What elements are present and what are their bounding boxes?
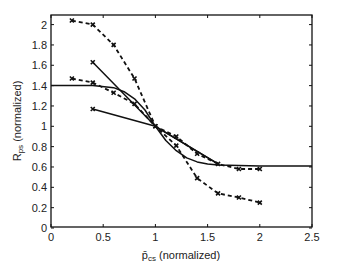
x-axis-label: p̄cs (normalized) bbox=[142, 249, 220, 263]
x-tick-label: 2 bbox=[257, 231, 263, 243]
series-solid-steep bbox=[93, 62, 218, 164]
x-tick-label: 0.5 bbox=[96, 231, 111, 243]
series-dashed-lower bbox=[72, 79, 260, 170]
y-tick-label: 0.8 bbox=[32, 141, 47, 153]
y-tick-label: 1.2 bbox=[32, 100, 47, 112]
y-tick-label: 0.4 bbox=[32, 181, 47, 193]
x-tick-label: 1.5 bbox=[200, 231, 215, 243]
y-axis-ticks: 00.20.40.60.811.21.41.61.82 bbox=[32, 19, 312, 234]
series-solid-smooth bbox=[51, 86, 312, 166]
x-marker-icon bbox=[91, 60, 95, 64]
y-tick-label: 1.6 bbox=[32, 59, 47, 71]
y-axis-label: Rps (normalized) bbox=[11, 81, 25, 162]
y-tick-label: 0.2 bbox=[32, 202, 47, 214]
x-marker-icon bbox=[91, 23, 95, 27]
y-tick-label: 1.4 bbox=[32, 80, 47, 92]
y-tick-label: 2 bbox=[41, 19, 47, 31]
plot-lines bbox=[51, 19, 312, 205]
x-tick-label: 2.5 bbox=[304, 231, 319, 243]
y-tick-label: 0.6 bbox=[32, 161, 47, 173]
y-tick-label: 1.8 bbox=[32, 39, 47, 51]
y-tick-label: 0 bbox=[41, 222, 47, 234]
series-solid-shallow bbox=[93, 109, 218, 164]
x-tick-label: 1 bbox=[152, 231, 158, 243]
x-tick-label: 0 bbox=[48, 231, 54, 243]
y-tick-label: 1 bbox=[41, 120, 47, 132]
plot-frame bbox=[51, 15, 312, 227]
x-axis-ticks: 00.511.522.5 bbox=[48, 15, 320, 243]
line-chart: 00.511.522.5 00.20.40.60.811.21.41.61.82… bbox=[0, 0, 337, 268]
